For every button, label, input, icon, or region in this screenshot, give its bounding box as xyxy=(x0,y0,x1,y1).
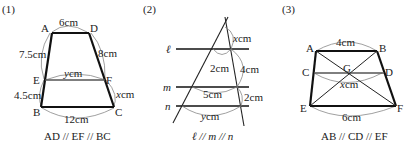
vertex-E: E xyxy=(300,102,307,114)
geometry-figures: (1) A D E F B C 6cm 7.5cm 8cm ycm 4.5cm … xyxy=(0,0,408,144)
measure-right-mn: 2cm xyxy=(244,91,263,103)
vertex-G: G xyxy=(343,62,351,74)
segment-DC xyxy=(89,33,114,107)
problem-1: (1) A D E F B C 6cm 7.5cm 8cm ycm 4.5cm … xyxy=(2,3,135,142)
measure-FC: xcm xyxy=(115,88,135,100)
vertex-D: D xyxy=(385,66,393,78)
vertex-B: B xyxy=(379,42,386,54)
vertex-C: C xyxy=(302,66,309,78)
measure-EB: 4.5cm xyxy=(14,89,42,101)
vertex-B: B xyxy=(33,106,40,118)
problem-3: (3) A B C D G E F 4cm xcm 6cm AB // CD /… xyxy=(282,3,403,142)
condition-2: ℓ // m // n xyxy=(192,130,234,142)
problem-3-number: (3) xyxy=(282,3,295,16)
measure-CD: xcm xyxy=(339,78,359,90)
label-m: m xyxy=(163,81,171,93)
segment-AE xyxy=(310,51,316,106)
segment-AB xyxy=(41,33,52,107)
measure-m-seg: 5cm xyxy=(203,88,222,100)
measure-EF: ycm xyxy=(63,67,83,79)
vertex-E: E xyxy=(33,74,40,86)
label-l: ℓ xyxy=(166,43,171,55)
measure-x: xcm xyxy=(232,32,252,44)
label-n: n xyxy=(165,100,171,112)
vertex-D: D xyxy=(90,22,98,34)
measure-AD: 6cm xyxy=(59,16,78,28)
measure-EF: 6cm xyxy=(342,111,361,123)
measure-n-seg: ycm xyxy=(200,110,220,122)
problem-2-number: (2) xyxy=(143,3,156,16)
measure-AE: 7.5cm xyxy=(19,48,47,60)
problem-2: (2) ℓ m n xcm 2cm 4cm 5cm 2cm ycm ℓ // m… xyxy=(143,3,263,142)
problem-1-number: (1) xyxy=(2,3,15,16)
segment-BF xyxy=(377,51,396,106)
vertex-C: C xyxy=(115,106,122,118)
condition-3: AB // CD // EF xyxy=(321,130,388,142)
measure-AB: 4cm xyxy=(336,36,355,48)
vertex-A: A xyxy=(306,42,314,54)
measure-right-lm: 4cm xyxy=(240,63,259,75)
vertex-F: F xyxy=(106,74,112,86)
vertex-F: F xyxy=(397,102,403,114)
measure-DF: 8cm xyxy=(98,47,117,59)
arc-l-seg xyxy=(213,49,231,55)
vertex-A: A xyxy=(41,22,49,34)
measure-BC: 12cm xyxy=(64,113,89,125)
condition-1: AD // EF // BC xyxy=(44,130,111,142)
measure-l-seg: 2cm xyxy=(210,62,229,74)
